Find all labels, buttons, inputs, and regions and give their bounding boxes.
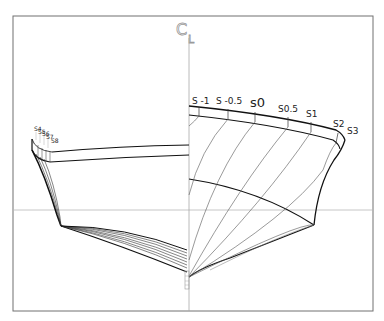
svg-text:S8: S8 <box>51 137 59 144</box>
svg-text:S -1: S -1 <box>192 96 210 106</box>
left-station-labels: S4 S5 S6 S7 S8 <box>34 125 59 144</box>
svg-text:S0.5: S0.5 <box>278 104 298 114</box>
svg-text:S1: S1 <box>306 109 317 119</box>
svg-text:s0: s0 <box>250 95 265 110</box>
svg-text:S2: S2 <box>333 119 344 129</box>
body-plan-drawing: C L S -1 S -0.5 s0 S0.5 S1 <box>0 0 384 321</box>
svg-text:S -0.5: S -0.5 <box>216 96 242 106</box>
svg-text:C: C <box>176 20 187 39</box>
svg-text:L: L <box>188 33 195 46</box>
left-half-hull <box>32 132 189 289</box>
centerline-label: C L <box>176 20 195 46</box>
drawing-frame <box>13 16 373 311</box>
svg-text:S3: S3 <box>347 126 358 136</box>
right-half-hull <box>189 106 345 277</box>
